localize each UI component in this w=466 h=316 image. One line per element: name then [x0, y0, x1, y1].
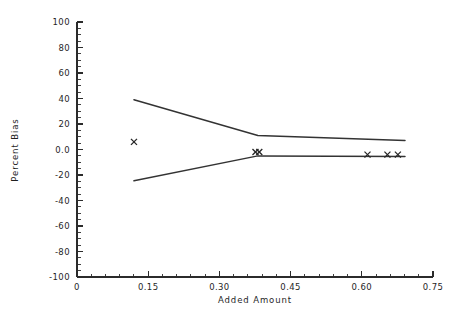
chart-canvas: -100-80-60-40-200.020406080100 00.150.30…: [0, 0, 466, 316]
x-tick-label-3: 0.45: [280, 282, 301, 292]
y-tick-label-8: 60: [58, 68, 70, 78]
x-axis-tick-labels: 00.150.300.450.600.75: [74, 282, 443, 292]
data-point-marker: [131, 139, 137, 145]
series-line-lower-bound: [134, 156, 405, 181]
y-tick-label-5: 0.0: [55, 145, 70, 155]
series-line-upper-bound: [134, 100, 405, 141]
y-tick-label-9: 80: [58, 43, 70, 53]
y-tick-label-1: -80: [55, 247, 70, 257]
y-tick-label-2: -60: [55, 221, 70, 231]
percent-bias-chart: -100-80-60-40-200.020406080100 00.150.30…: [0, 0, 466, 316]
y-tick-label-3: -40: [55, 196, 70, 206]
data-point-marker: [256, 149, 262, 155]
x-tick-label-5: 0.75: [423, 282, 444, 292]
x-tick-label-1: 0.15: [138, 282, 159, 292]
y-axis-tick-labels: -100-80-60-40-200.020406080100: [49, 17, 70, 282]
y-tick-label-4: -20: [55, 170, 70, 180]
y-axis-title: Percent Bias: [10, 118, 20, 181]
data-marker-layer: [131, 139, 401, 158]
x-tick-label-2: 0.30: [209, 282, 230, 292]
y-tick-label-10: 100: [53, 17, 70, 27]
x-tick-label-0: 0: [74, 282, 80, 292]
y-tick-label-0: -100: [49, 272, 70, 282]
x-axis-title: Added Amount: [218, 295, 292, 305]
x-axis-major-ticks: [77, 271, 433, 277]
series-layer: [134, 100, 405, 181]
y-tick-label-7: 40: [58, 94, 70, 104]
x-tick-label-4: 0.60: [352, 282, 373, 292]
y-tick-label-6: 20: [58, 119, 70, 129]
